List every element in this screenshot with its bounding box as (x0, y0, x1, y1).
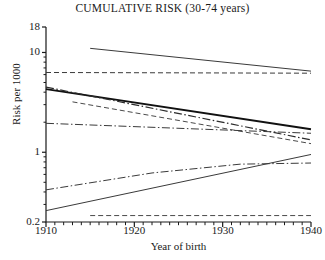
series-5-dashed-medium-decline (73, 102, 312, 144)
x-tick-label: 1920 (114, 224, 154, 236)
data-series-layer (46, 48, 311, 215)
series-2-dashed-flat-upper (46, 72, 311, 73)
x-tick-label: 1910 (26, 224, 66, 236)
chart-figure: CUMULATIVE RISK (30-74 years) Risk per 1… (0, 0, 325, 260)
y-tick-label: 10 (0, 46, 46, 56)
x-tick-label: 1940 (291, 224, 325, 236)
series-1-solid-declining-top (90, 48, 311, 71)
y-tick-label: 1 (0, 146, 46, 156)
series-7-dashdot-rising (46, 163, 311, 190)
y-tick-label: 18 (0, 21, 46, 31)
x-tick-label: 1930 (203, 224, 243, 236)
series-8-solid-rising (46, 154, 311, 210)
series-6-dashdot-slight-decline (46, 123, 311, 133)
plot-area (0, 0, 325, 260)
